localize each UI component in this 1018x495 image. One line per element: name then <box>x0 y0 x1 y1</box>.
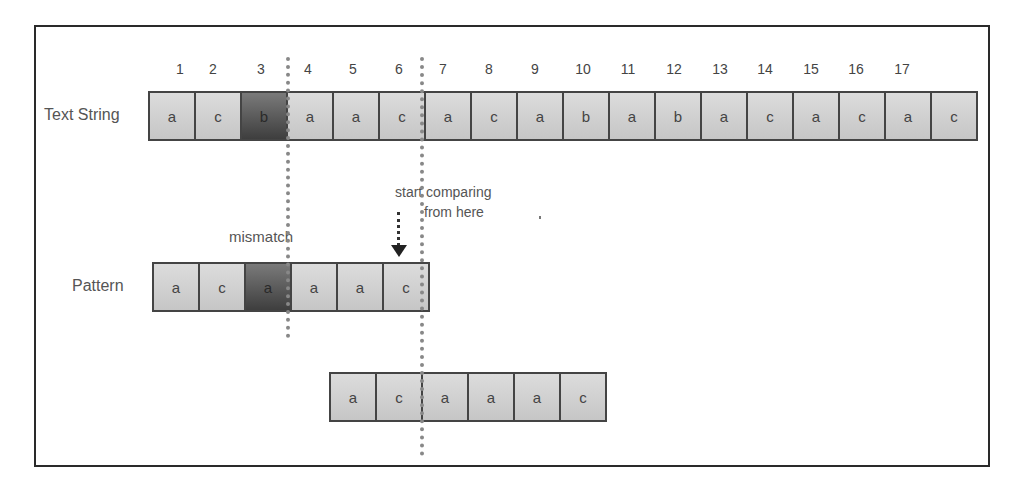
text-cell: c <box>840 93 884 139</box>
pattern-cell-mismatch: a <box>246 264 290 310</box>
mismatch-label: mismatch <box>229 227 293 247</box>
index-number: 13 <box>712 61 728 77</box>
text-cell: a <box>886 93 930 139</box>
text-cell: c <box>380 93 424 139</box>
shifted-pattern-cell: c <box>561 374 605 420</box>
shifted-pattern-cell: c <box>377 374 421 420</box>
text-cell-mismatch: b <box>242 93 286 139</box>
index-number: 14 <box>757 61 773 77</box>
start-comparing-label-line2: from here <box>424 202 484 222</box>
text-cell: b <box>564 93 608 139</box>
compare-start-guide-line <box>420 57 424 456</box>
text-cell: a <box>288 93 332 139</box>
text-cell: a <box>150 93 194 139</box>
index-number: 8 <box>485 61 493 77</box>
pattern-cell: c <box>200 264 244 310</box>
stray-mark <box>539 216 541 219</box>
text-cell: c <box>472 93 516 139</box>
shifted-pattern-cell: a <box>423 374 467 420</box>
text-cell: a <box>794 93 838 139</box>
index-number: 16 <box>848 61 864 77</box>
text-cell: b <box>656 93 700 139</box>
pattern-cell: a <box>292 264 336 310</box>
index-number: 17 <box>894 61 910 77</box>
index-number: 12 <box>666 61 682 77</box>
index-number: 6 <box>395 61 403 77</box>
shifted-pattern-cell: a <box>515 374 559 420</box>
pattern-row: a c a a a c <box>152 262 430 312</box>
text-cell: c <box>196 93 240 139</box>
mismatch-guide-line <box>286 57 290 338</box>
text-cell: a <box>426 93 470 139</box>
index-number: 7 <box>439 61 447 77</box>
text-string-label: Text String <box>44 106 120 124</box>
text-cell: a <box>518 93 562 139</box>
index-number: 4 <box>304 61 312 77</box>
shifted-pattern-cell: a <box>469 374 513 420</box>
index-number: 11 <box>621 61 636 77</box>
index-number: 10 <box>575 61 591 77</box>
index-number: 3 <box>257 61 265 77</box>
index-number: 5 <box>349 61 357 77</box>
text-cell: c <box>748 93 792 139</box>
shifted-pattern-row: a c a a a c <box>329 372 607 422</box>
text-cell: c <box>932 93 976 139</box>
text-cell: a <box>334 93 378 139</box>
pattern-cell: a <box>338 264 382 310</box>
index-number: 15 <box>803 61 819 77</box>
text-cell: a <box>610 93 654 139</box>
index-number: 2 <box>209 61 217 77</box>
pattern-label: Pattern <box>72 277 124 295</box>
shifted-pattern-cell: a <box>331 374 375 420</box>
start-comparing-label-line1: start comparing <box>395 182 491 202</box>
index-number: 1 <box>176 61 184 77</box>
text-string-row: a c b a a c a c a b a b a c a c a c <box>148 91 978 141</box>
index-number: 9 <box>531 61 539 77</box>
pattern-cell: a <box>154 264 198 310</box>
text-cell: a <box>702 93 746 139</box>
